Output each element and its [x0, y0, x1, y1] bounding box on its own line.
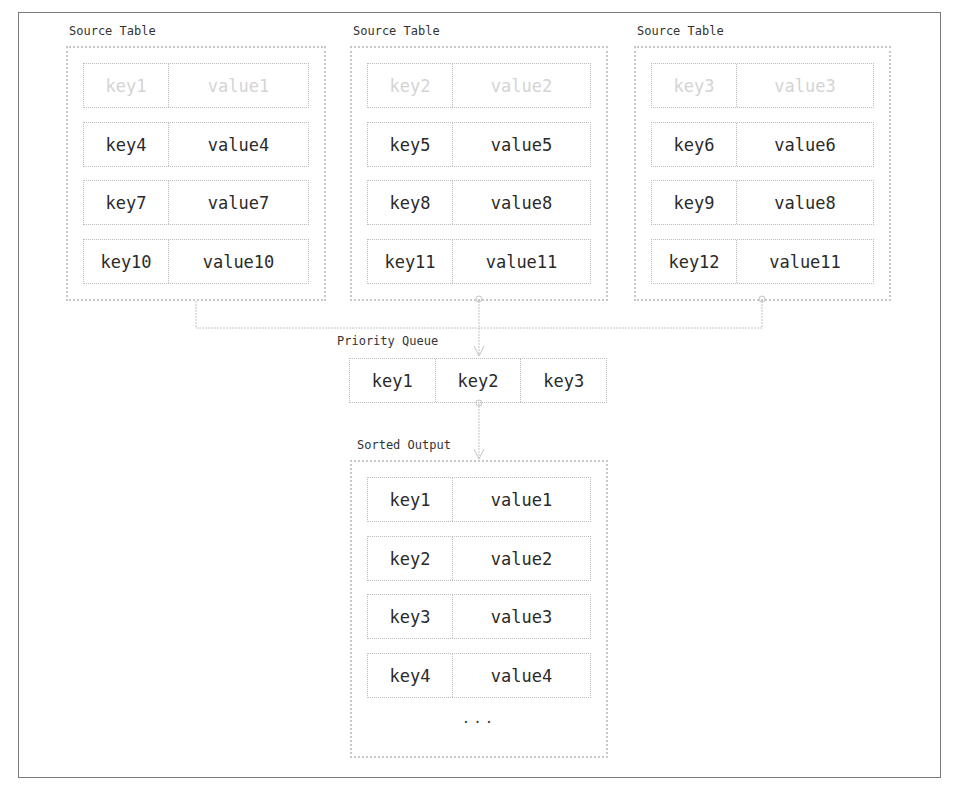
- connector-table3-to-queue: [479, 301, 762, 328]
- table-row: key9 value8: [651, 180, 874, 225]
- table-row: key4 value4: [367, 653, 591, 698]
- table-row: key2 value2: [367, 536, 591, 581]
- table-row: key1 value1: [83, 63, 309, 108]
- row-key: key11: [368, 240, 453, 283]
- row-key: key4: [368, 654, 453, 697]
- source-table-caption: Source Table: [69, 24, 156, 38]
- row-key: key1: [368, 478, 453, 521]
- row-key: key6: [652, 123, 737, 166]
- table-row: key12 value11: [651, 239, 874, 284]
- row-key: key8: [368, 181, 453, 224]
- queue-cell: key1: [350, 359, 436, 402]
- row-value: value7: [169, 181, 308, 224]
- row-key: key3: [368, 595, 453, 638]
- row-value: value11: [453, 240, 590, 283]
- source-table-3: key3 value3 key6 value6 key9 value8 key1…: [634, 46, 891, 301]
- table-row: key3 value3: [367, 594, 591, 639]
- row-value: value11: [737, 240, 873, 283]
- connector-table1-to-queue: [196, 301, 479, 328]
- table-row: key5 value5: [367, 122, 591, 167]
- row-value: value1: [169, 64, 308, 107]
- row-key: key7: [84, 181, 169, 224]
- table-row: key2 value2: [367, 63, 591, 108]
- source-table-2: key2 value2 key5 value5 key8 value8 key1…: [350, 46, 608, 301]
- table-row: key8 value8: [367, 180, 591, 225]
- table-row: key1 value1: [367, 477, 591, 522]
- row-key: key5: [368, 123, 453, 166]
- row-value: value8: [453, 181, 590, 224]
- row-value: value10: [169, 240, 308, 283]
- row-key: key4: [84, 123, 169, 166]
- table-row: key3 value3: [651, 63, 874, 108]
- queue-cell: key3: [521, 359, 606, 402]
- source-table-1: key1 value1 key4 value4 key7 value7 key1…: [66, 46, 326, 301]
- row-value: value1: [453, 478, 590, 521]
- table-row: key7 value7: [83, 180, 309, 225]
- priority-queue: key1 key2 key3: [349, 358, 607, 403]
- row-key: key9: [652, 181, 737, 224]
- table-row: key4 value4: [83, 122, 309, 167]
- sorted-output-caption: Sorted Output: [357, 438, 451, 452]
- row-value: value3: [737, 64, 873, 107]
- row-value: value3: [453, 595, 590, 638]
- row-key: key1: [84, 64, 169, 107]
- row-key: key2: [368, 64, 453, 107]
- row-value: value8: [737, 181, 873, 224]
- row-value: value5: [453, 123, 590, 166]
- source-table-caption: Source Table: [637, 24, 724, 38]
- priority-queue-caption: Priority Queue: [337, 334, 438, 348]
- table-row: key6 value6: [651, 122, 874, 167]
- table-row: key10 value10: [83, 239, 309, 284]
- source-table-caption: Source Table: [353, 24, 440, 38]
- row-value: value2: [453, 537, 590, 580]
- row-value: value6: [737, 123, 873, 166]
- row-value: value2: [453, 64, 590, 107]
- row-key: key10: [84, 240, 169, 283]
- row-key: key3: [652, 64, 737, 107]
- row-value: value4: [169, 123, 308, 166]
- row-key: key2: [368, 537, 453, 580]
- sorted-output-table: key1 value1 key2 value2 key3 value3 key4…: [350, 460, 608, 758]
- queue-cell: key2: [436, 359, 522, 402]
- table-row: key11 value11: [367, 239, 591, 284]
- ellipsis: ...: [352, 710, 606, 726]
- row-value: value4: [453, 654, 590, 697]
- row-key: key12: [652, 240, 737, 283]
